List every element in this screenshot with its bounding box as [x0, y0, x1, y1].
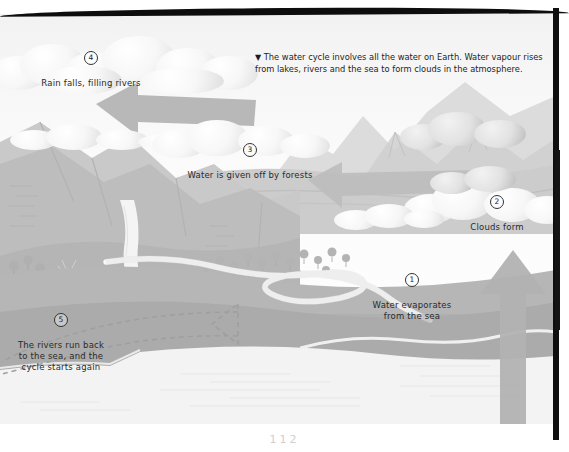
step-label-4: 4 Rain falls, filling rivers	[6, 40, 176, 89]
step-text-5: The rivers run back to the sea, and the …	[18, 340, 104, 372]
step-label-2: 2 Clouds form	[452, 184, 542, 233]
step-text-4: Rain falls, filling rivers	[41, 78, 140, 88]
step-number-2: 2	[490, 195, 504, 209]
water-cycle-illustration: 4 Rain falls, filling rivers 3 Water is …	[0, 14, 556, 424]
step-label-5: 5 The rivers run back to the sea, and th…	[2, 302, 120, 373]
step-number-1: 1	[405, 273, 419, 287]
step-text-3: Water is given off by forests	[187, 170, 312, 180]
step-number-3: 3	[243, 143, 257, 157]
step-text-2: Clouds form	[470, 222, 523, 232]
step-text-1: Water evaporates from the sea	[373, 300, 452, 321]
page-edge-right-lower	[555, 150, 560, 330]
step-label-1: 1 Water evaporates from the sea	[352, 262, 472, 322]
step-number-4: 4	[84, 51, 98, 65]
cloud-bank-upper-right	[400, 108, 530, 154]
figure-caption: ▼ The water cycle involves all the water…	[255, 52, 545, 75]
page-number: 112	[0, 433, 569, 446]
evaporation-rise-arrow	[478, 250, 548, 424]
cloud-low-right	[334, 200, 444, 230]
caption-triangle-icon: ▼	[255, 53, 261, 62]
step-number-5: 5	[54, 313, 68, 327]
caption-text: The water cycle involves all the water o…	[255, 52, 543, 74]
step-label-3: 3 Water is given off by forests	[160, 132, 340, 181]
page-root: 4 Rain falls, filling rivers 3 Water is …	[0, 0, 569, 452]
